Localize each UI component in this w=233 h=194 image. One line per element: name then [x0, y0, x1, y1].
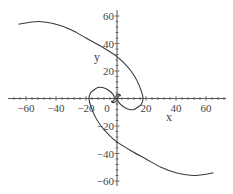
x-tick-label: 20 [141, 102, 153, 114]
x-tick-label: −20 [77, 102, 95, 114]
y-tick-label: −60 [97, 175, 115, 187]
x-tick-label: 60 [201, 102, 213, 114]
x-tick-label: −60 [17, 102, 35, 114]
y-tick-label: −20 [97, 120, 115, 132]
x-axis-label: x [166, 110, 172, 124]
y-tick-label: 60 [103, 10, 115, 22]
y-tick-label: 40 [103, 38, 115, 50]
x-tick-label: 40 [171, 102, 183, 114]
plot-area: −60−40−200204060−60−40−20204060 x y [0, 0, 233, 194]
y-tick-label: −40 [97, 148, 115, 160]
y-axis-label: y [94, 50, 100, 64]
x-tick-label: −40 [47, 102, 65, 114]
y-tick-label: 20 [103, 65, 115, 77]
x-tick-label: 0 [104, 102, 110, 114]
spiral-curve-arm-1 [19, 22, 144, 110]
